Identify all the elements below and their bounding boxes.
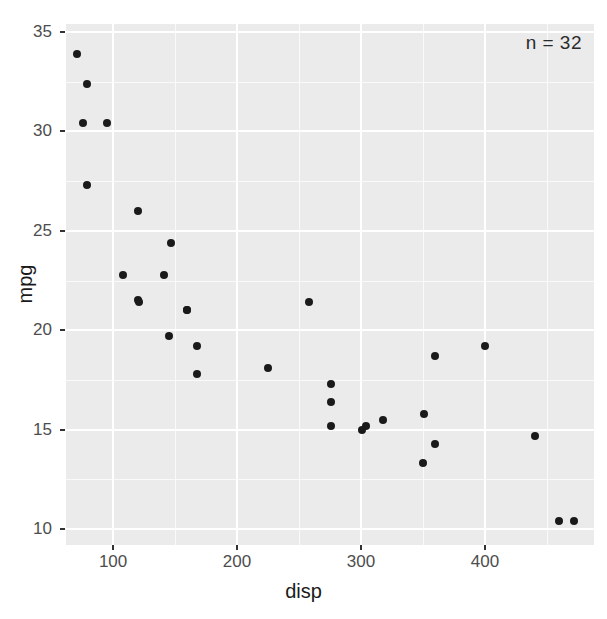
y-axis-tick-mark <box>60 528 65 530</box>
data-point <box>73 50 81 58</box>
y-axis-tick-label: 15 <box>33 420 52 440</box>
gridline-major-vertical <box>360 24 362 545</box>
data-point <box>358 426 366 434</box>
x-axis-tick-label: 400 <box>471 552 499 572</box>
data-point <box>481 342 489 350</box>
data-point <box>83 80 91 88</box>
data-point <box>135 298 143 306</box>
y-axis-title: mpg <box>14 265 37 304</box>
data-point <box>83 181 91 189</box>
x-axis-tick-mark <box>112 545 114 550</box>
gridline-major-vertical <box>484 24 486 545</box>
data-point <box>193 370 201 378</box>
gridline-major-horizontal <box>66 329 594 331</box>
gridline-major-horizontal <box>66 528 594 530</box>
data-point <box>327 380 335 388</box>
y-axis-tick-label: 10 <box>33 519 52 539</box>
scatter-plot-figure: n = 32 101520253035 100200300400 mpg dis… <box>0 0 607 619</box>
data-point <box>119 271 127 279</box>
data-point <box>183 306 191 314</box>
data-point <box>134 207 142 215</box>
x-axis-tick-label: 100 <box>99 552 127 572</box>
gridline-major-vertical <box>236 24 238 545</box>
gridline-minor-horizontal <box>66 281 594 282</box>
gridline-major-horizontal <box>66 31 594 33</box>
data-point <box>165 332 173 340</box>
data-point <box>555 517 563 525</box>
x-axis-tick-label: 200 <box>223 552 251 572</box>
plot-panel: n = 32 <box>66 24 594 545</box>
data-point <box>531 432 539 440</box>
gridline-major-horizontal <box>66 130 594 132</box>
y-axis-tick-label: 30 <box>33 121 52 141</box>
x-axis-tick-label: 300 <box>347 552 375 572</box>
data-point <box>419 459 427 467</box>
gridline-minor-vertical <box>299 24 300 545</box>
data-point <box>167 239 175 247</box>
gridline-minor-vertical <box>547 24 548 545</box>
y-axis-tick-mark <box>60 130 65 132</box>
y-axis-tick-label: 20 <box>33 320 52 340</box>
x-axis-title: disp <box>0 580 607 603</box>
gridline-minor-horizontal <box>66 479 594 480</box>
data-point <box>327 422 335 430</box>
data-point <box>305 298 313 306</box>
y-axis-tick-mark <box>60 429 65 431</box>
data-point <box>327 398 335 406</box>
y-axis-tick-mark <box>60 31 65 33</box>
data-point <box>420 410 428 418</box>
sample-size-annotation: n = 32 <box>526 32 582 54</box>
data-point <box>431 352 439 360</box>
data-point <box>264 364 272 372</box>
data-point <box>431 440 439 448</box>
data-point <box>79 119 87 127</box>
gridline-minor-horizontal <box>66 181 594 182</box>
x-axis-tick-mark <box>236 545 238 550</box>
data-point <box>193 342 201 350</box>
y-axis-tick-mark <box>60 230 65 232</box>
y-axis-tick-label: 25 <box>33 221 52 241</box>
x-axis-tick-mark <box>484 545 486 550</box>
gridline-minor-horizontal <box>66 82 594 83</box>
x-axis-tick-mark <box>360 545 362 550</box>
gridline-minor-vertical <box>175 24 176 545</box>
data-point <box>379 416 387 424</box>
y-axis-tick-mark <box>60 329 65 331</box>
y-axis-tick-label: 35 <box>33 22 52 42</box>
data-point <box>160 271 168 279</box>
gridline-major-horizontal <box>66 230 594 232</box>
gridline-major-vertical <box>112 24 114 545</box>
data-point <box>103 119 111 127</box>
data-point <box>570 517 578 525</box>
